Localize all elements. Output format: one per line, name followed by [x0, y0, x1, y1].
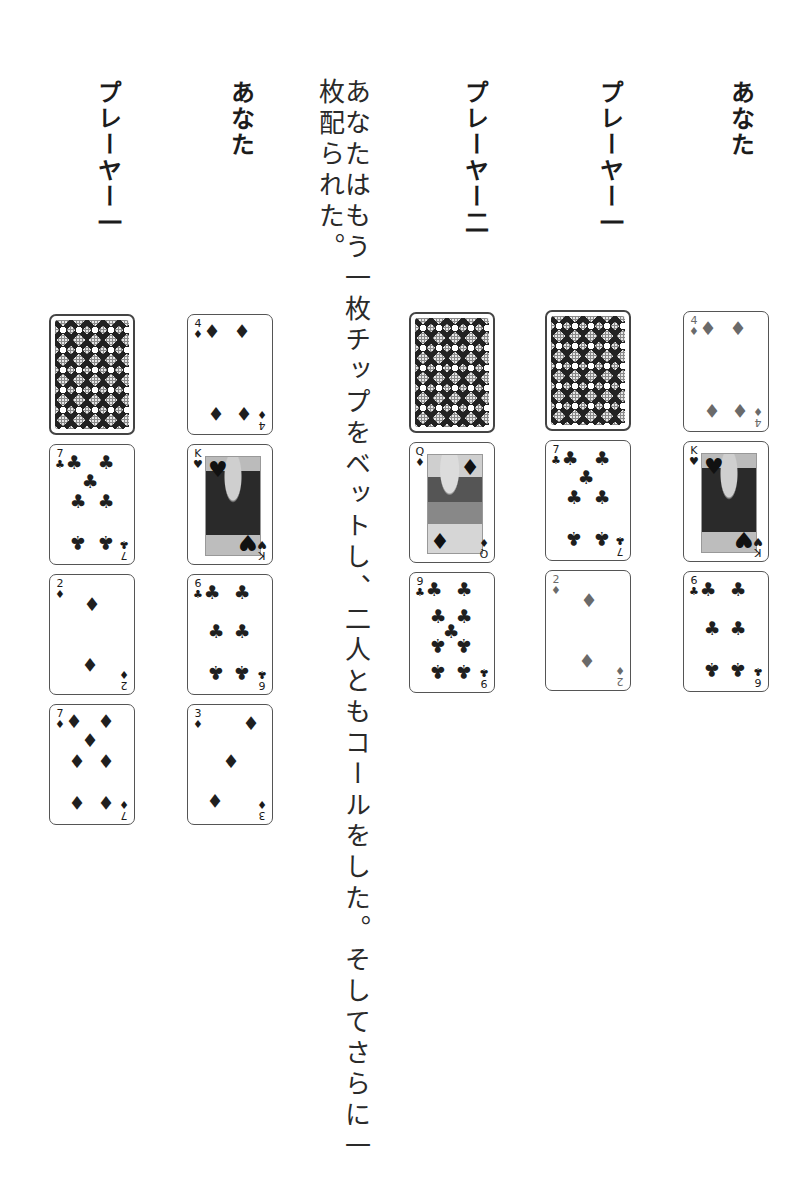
card-4-diamonds: 4♦ ♦ ♦ ♦ ♦ 4♦ — [187, 314, 273, 435]
club-icon: ♣ — [702, 660, 722, 679]
diamond-icon: ♦ — [96, 752, 116, 771]
card-index: 2♦ — [55, 578, 65, 600]
heart-icon: ♥ — [704, 456, 724, 478]
diamond-icon: ♦ — [430, 529, 450, 551]
club-icon: ♣ — [80, 472, 100, 491]
club-icon: ♣ — [592, 449, 612, 468]
hand-you-after: 4♦ ♦ ♦ ♦ ♦ 4♦ K♥ ♥ ♥ K♥ 6♣ ♣ ♣ ♣ ♣ ♣ ♣ 6… — [187, 314, 273, 834]
heading-you-before: あなた — [728, 80, 752, 158]
diamond-icon: ♦ — [702, 401, 722, 420]
heart-icon: ♥ — [238, 531, 258, 553]
king-portrait: ♥ ♥ — [701, 453, 757, 553]
card-7-diamonds: 7♦ ♦ ♦ ♦ ♦ ♦ ♦ ♦ 7♦ — [49, 704, 135, 825]
diamond-icon: ♦ — [460, 457, 480, 479]
club-icon: ♣ — [698, 580, 718, 599]
diamond-icon: ♦ — [202, 322, 222, 341]
club-icon: ♣ — [428, 662, 448, 681]
hand-you-before: 4♦ ♦ ♦ ♦ ♦ 4♦ K♥ ♥ ♥ K♥ 6♣ ♣ ♣ ♣ ♣ ♣ ♣ 6… — [683, 311, 769, 701]
card-face-down — [49, 314, 135, 435]
hand-player-one-before: 7♣ ♣ ♣ ♣ ♣ ♣ ♣ ♣ 7♣ 2♦ ♦ ♦ 2♦ — [545, 310, 631, 700]
card-6-clubs: 6♣ ♣ ♣ ♣ ♣ ♣ ♣ 6♣ — [683, 571, 769, 692]
card-king-hearts: K♥ ♥ ♥ K♥ — [187, 444, 273, 565]
club-icon: ♣ — [454, 580, 474, 599]
card-face-down — [409, 312, 495, 433]
hand-player-one-after: 7♣ ♣ ♣ ♣ ♣ ♣ ♣ ♣ 7♣ 2♦ ♦ ♦ 2♦ 7♦ ♦ ♦ ♦ ♦… — [49, 314, 135, 834]
diamond-icon: ♦ — [206, 404, 226, 423]
diamond-icon: ♦ — [82, 595, 102, 614]
card-6-clubs: 6♣ ♣ ♣ ♣ ♣ ♣ ♣ 6♣ — [187, 574, 273, 695]
diamond-icon: ♦ — [730, 401, 750, 420]
queen-portrait: ♦ ♦ — [427, 454, 483, 554]
card-index: 7♣ — [119, 539, 129, 561]
club-icon: ♣ — [564, 529, 584, 548]
card-index: K♥ — [257, 539, 267, 561]
card-index: 7♣ — [615, 535, 625, 557]
card-index: 4♦ — [753, 406, 763, 428]
card-2-diamonds: 2♦ ♦ ♦ 2♦ — [545, 570, 631, 691]
diamond-icon: ♦ — [698, 319, 718, 338]
card-back-pattern — [551, 316, 625, 425]
diamond-icon: ♦ — [67, 752, 87, 771]
king-portrait: ♥ ♥ — [205, 456, 261, 556]
diamond-icon: ♦ — [234, 404, 254, 423]
diamond-icon: ♦ — [241, 714, 261, 733]
club-icon: ♣ — [68, 533, 88, 552]
club-icon: ♣ — [424, 580, 444, 599]
card-index: 6♣ — [257, 669, 267, 691]
club-icon: ♣ — [592, 488, 612, 507]
card-4-diamonds: 4♦ ♦ ♦ ♦ ♦ 4♦ — [683, 311, 769, 432]
club-icon: ♣ — [96, 453, 116, 472]
card-index: 2♦ — [551, 574, 561, 596]
heading-player-one-before: プレーヤー一 — [597, 80, 621, 236]
card-index: 6♣ — [753, 666, 763, 688]
diamond-icon: ♦ — [80, 731, 100, 750]
card-index: 2♦ — [615, 665, 625, 687]
card-index: 3♦ — [193, 708, 203, 730]
diamond-icon: ♦ — [579, 591, 599, 610]
diamond-icon: ♦ — [232, 322, 252, 341]
card-7-clubs: 7♣ ♣ ♣ ♣ ♣ ♣ ♣ ♣ 7♣ — [545, 440, 631, 561]
club-icon: ♣ — [232, 622, 252, 641]
card-index: Q♦ — [415, 446, 425, 468]
card-index: Q♦ — [479, 537, 489, 559]
diamond-icon: ♦ — [96, 712, 116, 731]
card-back-pattern — [55, 320, 129, 429]
card-index: 3♦ — [257, 799, 267, 821]
heart-icon: ♥ — [208, 459, 228, 481]
heading-you-after: あなた — [228, 80, 252, 158]
club-icon: ♣ — [232, 583, 252, 602]
heart-icon: ♥ — [734, 528, 754, 550]
club-icon: ♣ — [206, 622, 226, 641]
hand-player-two: Q♦ ♦ ♦ Q♦ 9♣ ♣ ♣ ♣ ♣ ♣ ♣ ♣ ♣ ♣ 9♣ — [409, 312, 495, 702]
diamond-icon: ♦ — [221, 752, 241, 771]
card-index: 7♦ — [119, 799, 129, 821]
card-index: K♥ — [193, 448, 203, 470]
diamond-icon: ♦ — [96, 793, 116, 812]
club-icon: ♣ — [454, 662, 474, 681]
club-icon: ♣ — [454, 636, 474, 655]
diamond-icon: ♦ — [728, 319, 748, 338]
club-icon: ♣ — [592, 529, 612, 548]
club-icon: ♣ — [428, 636, 448, 655]
club-icon: ♣ — [564, 488, 584, 507]
card-index: 2♦ — [119, 669, 129, 691]
club-icon: ♣ — [728, 580, 748, 599]
heading-player-two: プレーヤー二 — [462, 80, 486, 236]
card-index: 4♦ — [257, 409, 267, 431]
club-icon: ♣ — [96, 492, 116, 511]
card-index: 9♣ — [479, 667, 489, 689]
heading-player-one-after: プレーヤー一 — [95, 80, 119, 236]
card-face-down — [545, 310, 631, 431]
club-icon: ♣ — [702, 619, 722, 638]
card-index: K♥ — [689, 445, 699, 467]
card-3-diamonds: 3♦ ♦ ♦ ♦ 3♦ — [187, 704, 273, 825]
card-7-clubs: 7♣ ♣ ♣ ♣ ♣ ♣ ♣ ♣ 7♣ — [49, 444, 135, 565]
diamond-icon: ♦ — [67, 793, 87, 812]
card-9-clubs: 9♣ ♣ ♣ ♣ ♣ ♣ ♣ ♣ ♣ ♣ 9♣ — [409, 572, 495, 693]
card-king-hearts: K♥ ♥ ♥ K♥ — [683, 441, 769, 562]
club-icon: ♣ — [206, 663, 226, 682]
club-icon: ♣ — [96, 533, 116, 552]
club-icon: ♣ — [232, 663, 252, 682]
club-icon: ♣ — [202, 583, 222, 602]
diamond-icon: ♦ — [80, 655, 100, 674]
